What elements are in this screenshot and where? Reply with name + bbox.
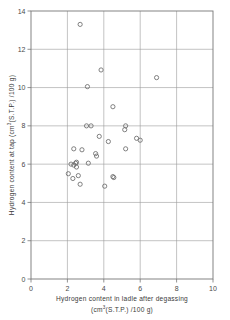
y-tick-labels: 02468101214 (18, 8, 26, 283)
data-point (103, 184, 107, 188)
y-tick-label: 10 (18, 84, 26, 91)
y-tick-label: 6 (22, 161, 26, 168)
x-tick-label: 10 (209, 285, 217, 292)
y-tick-label: 2 (22, 237, 26, 244)
data-point (106, 139, 110, 143)
y-tick-label: 14 (18, 8, 26, 15)
data-point (86, 161, 90, 165)
data-points (66, 22, 158, 188)
data-point (123, 128, 127, 132)
x-tick-label: 8 (175, 285, 179, 292)
data-point (76, 174, 80, 178)
data-point (71, 176, 75, 180)
data-point (99, 68, 103, 72)
x-axis-unit-suffix: (S.T.P.) /100 g) (106, 306, 154, 314)
y-tick-label: 0 (22, 276, 26, 283)
scatter-plot-figure: 0246810 02468101214 Hydrogen content in … (0, 0, 230, 320)
data-point (154, 76, 158, 80)
x-tick-label: 6 (138, 285, 142, 292)
x-axis-unit-prefix: (cm (91, 306, 103, 314)
plot-frame (31, 11, 213, 279)
data-point (94, 152, 98, 156)
y-tick-label: 8 (22, 122, 26, 129)
data-point (66, 172, 70, 176)
data-point (72, 147, 76, 151)
data-point (97, 134, 101, 138)
y-tick-label: 4 (22, 199, 26, 206)
y-axis-label-prefix: Hydrogen content at tap (cm (8, 125, 16, 215)
grid-lines (31, 11, 213, 279)
x-tick-label: 0 (29, 285, 33, 292)
x-tick-labels: 0246810 (29, 285, 217, 292)
y-tick-label: 12 (18, 46, 26, 53)
chart-svg: 0246810 02468101214 Hydrogen content in … (0, 0, 230, 320)
tick-marks (28, 11, 214, 283)
x-tick-label: 4 (102, 285, 106, 292)
x-axis-label-line1: Hydrogen content in ladle after degassin… (56, 295, 188, 303)
data-point (80, 148, 84, 152)
data-point (78, 22, 82, 26)
y-axis-label: Hydrogen content at tap (cm3(S.T.P.) /10… (7, 75, 16, 215)
x-axis-label-line2: (cm3(S.T.P.) /100 g) (91, 305, 153, 314)
y-axis-unit-suffix: (S.T.P.) /100 g) (8, 75, 16, 123)
x-tick-label: 2 (65, 285, 69, 292)
data-point (78, 182, 82, 186)
data-point (85, 85, 89, 89)
data-point (112, 175, 116, 179)
data-point (94, 154, 98, 158)
data-point (124, 147, 128, 151)
data-point (111, 105, 115, 109)
